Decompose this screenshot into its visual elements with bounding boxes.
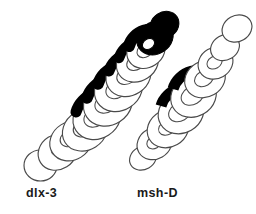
caption-row: dlx-3 msh-D	[0, 186, 256, 210]
panel-right-label: msh-D	[137, 186, 178, 200]
embryo-diagram-svg: .ring-outline { fill:#ffffff; stroke:#4a…	[0, 0, 256, 214]
figure-root: .ring-outline { fill:#ffffff; stroke:#4a…	[0, 0, 256, 214]
panel-left-label: dlx-3	[26, 186, 57, 200]
